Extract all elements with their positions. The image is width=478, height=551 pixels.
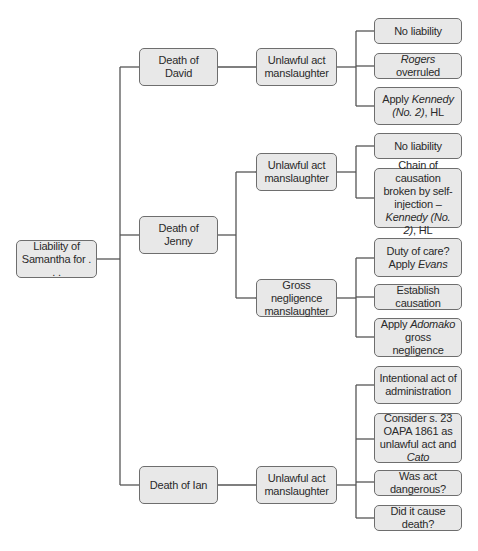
offence-node-2-1-label: Unlawful act manslaughter	[261, 159, 332, 185]
offence-node-2-2-label: Gross negligence manslaughter	[261, 279, 332, 318]
point-node-2-1-2: Chain of causation broken by self-inject…	[374, 168, 462, 228]
point-node-2-2-3-label: Apply Adomako gross negligence	[379, 318, 457, 357]
point-node-2-1-1: No liability	[374, 133, 462, 159]
point-node-3-1-3: Was act dangerous?	[374, 470, 462, 496]
point-node-2-2-3: Apply Adomako gross negligence	[374, 318, 462, 357]
offence-node-3-1: Unlawful act manslaughter	[256, 466, 337, 504]
offence-node-1-1-label: Unlawful act manslaughter	[261, 54, 332, 80]
point-node-2-1-1-label: No liability	[394, 140, 442, 153]
branch-node-2: Death of Jenny	[139, 216, 218, 254]
branch-node-3-label: Death of Ian	[150, 479, 208, 492]
point-node-3-1-1: Intentional act of administration	[374, 366, 462, 404]
offence-node-3-1-label: Unlawful act manslaughter	[261, 472, 332, 498]
point-node-3-1-1-label: Intentional act of administration	[379, 372, 457, 398]
offence-node-2-2: Gross negligence manslaughter	[256, 279, 337, 317]
point-node-3-1-2-label: Consider s. 23 OAPA 1861 as unlawful act…	[379, 412, 457, 464]
branch-node-2-label: Death of Jenny	[144, 222, 213, 248]
point-node-1-1-1: No liability	[374, 18, 462, 44]
point-node-3-1-3-label: Was act dangerous?	[379, 470, 457, 496]
root-node: Liability of Samantha for . . .	[16, 240, 97, 278]
point-node-1-1-3-label: Apply Kennedy (No. 2), HL	[379, 93, 457, 119]
point-node-1-1-3: Apply Kennedy (No. 2), HL	[374, 87, 462, 125]
point-node-2-2-2-label: Establish causation	[379, 284, 457, 310]
branch-node-1: Death of David	[139, 48, 218, 86]
offence-node-2-1: Unlawful act manslaughter	[256, 153, 337, 191]
point-node-1-1-1-label: No liability	[394, 25, 442, 38]
point-node-1-1-2-label: Rogers overruled	[379, 53, 457, 79]
branch-node-1-label: Death of David	[144, 54, 213, 80]
point-node-2-1-2-label: Chain of causation broken by self-inject…	[379, 159, 457, 237]
point-node-2-2-2: Establish causation	[374, 284, 462, 310]
point-node-2-2-1-label: Duty of care? Apply Evans	[379, 245, 457, 271]
branch-node-3: Death of Ian	[139, 466, 218, 504]
root-node-label: Liability of Samantha for . . .	[21, 240, 92, 279]
point-node-3-1-4-label: Did it cause death?	[379, 505, 457, 531]
point-node-1-1-2: Rogers overruled	[374, 53, 462, 79]
point-node-2-2-1: Duty of care? Apply Evans	[374, 238, 462, 277]
offence-node-1-1: Unlawful act manslaughter	[256, 48, 337, 86]
point-node-3-1-2: Consider s. 23 OAPA 1861 as unlawful act…	[374, 413, 462, 463]
point-node-3-1-4: Did it cause death?	[374, 505, 462, 531]
